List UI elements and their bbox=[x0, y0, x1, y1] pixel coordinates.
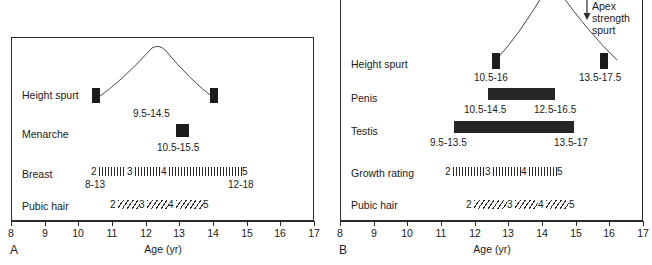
panel-b-tick-mark-16 bbox=[609, 221, 610, 226]
growth-rating-stage-4-b: 4 bbox=[521, 166, 527, 177]
height-spurt-offset-marker-a bbox=[210, 88, 218, 103]
apex-strength-spurt-line1: Apex bbox=[592, 1, 616, 13]
pubic-hair-segment-4-to-5-a bbox=[176, 200, 204, 209]
height-spurt-right-range-label-b: 13.5-17.5 bbox=[579, 72, 621, 83]
breast-stage-2-a: 2 bbox=[91, 166, 97, 177]
row-label-height-spurt-a: Height spurt bbox=[22, 89, 79, 101]
testis-right-range-label-b: 13.5-17 bbox=[554, 137, 588, 148]
breast-stage-5-a: 5 bbox=[242, 166, 248, 177]
row-label-menarche-a: Menarche bbox=[22, 128, 69, 140]
panel-b-tick-mark-13 bbox=[508, 221, 509, 226]
pubic-hair-segment-2-to-3-a bbox=[118, 200, 140, 209]
panel-a-tick-mark-17 bbox=[314, 221, 315, 226]
panel-a-axis-title: Age (yr) bbox=[103, 243, 223, 255]
pubic-hair-segment-4-to-5-b bbox=[546, 200, 569, 209]
penis-development-bar-b bbox=[488, 88, 555, 100]
panel-b-tick-mark-10 bbox=[407, 221, 408, 226]
panel-b-tick-label-15: 15 bbox=[564, 227, 588, 239]
breast-left-range-label-a: 8-13 bbox=[85, 179, 105, 190]
penis-left-range-label-b: 10.5-14.5 bbox=[464, 104, 506, 115]
pubic-hair-stage-4-a: 4 bbox=[168, 199, 174, 210]
height-spurt-offset-marker-b bbox=[600, 53, 608, 69]
pubic-hair-stage-2-b: 2 bbox=[466, 199, 472, 210]
panel-b-male: Apex strength spurt Height spurt 10.5-16… bbox=[326, 0, 652, 265]
pubic-hair-segment-3-to-4-a bbox=[147, 200, 169, 209]
apex-strength-spurt-line3: spurt bbox=[592, 25, 615, 37]
pubic-hair-segment-2-to-3-b bbox=[474, 200, 507, 209]
panel-b-tick-label-16: 16 bbox=[597, 227, 621, 239]
panel-a-tick-mark-12 bbox=[146, 221, 147, 226]
panel-a-letter: A bbox=[10, 243, 18, 257]
panel-b-tick-mark-9 bbox=[374, 221, 375, 226]
panel-b-tick-label-8: 8 bbox=[328, 227, 352, 239]
apex-strength-spurt-line2: strength bbox=[592, 13, 630, 25]
growth-rating-segment-2-to-3-b bbox=[453, 167, 485, 176]
pubic-hair-stage-2-a: 2 bbox=[110, 199, 116, 210]
panel-b-tick-label-9: 9 bbox=[362, 227, 386, 239]
breast-stage-4-a: 4 bbox=[161, 166, 167, 177]
height-spurt-range-label-a: 9.5-14.5 bbox=[133, 108, 170, 119]
pubic-hair-stage-4-b: 4 bbox=[538, 199, 544, 210]
pubic-hair-stage-5-b: 5 bbox=[569, 199, 575, 210]
panel-a-tick-label-13: 13 bbox=[167, 227, 191, 239]
panel-a-tick-label-14: 14 bbox=[201, 227, 225, 239]
panel-a-female: Height spurt 9.5-14.5 Menarche 10.5-15.5… bbox=[0, 0, 326, 265]
panel-b-tick-label-12: 12 bbox=[463, 227, 487, 239]
panel-b-tick-mark-12 bbox=[475, 221, 476, 226]
panel-a-tick-label-11: 11 bbox=[100, 227, 124, 239]
panel-a-tick-mark-10 bbox=[78, 221, 79, 226]
row-label-pubic-hair-a: Pubic hair bbox=[22, 200, 69, 212]
panel-a-tick-label-12: 12 bbox=[134, 227, 158, 239]
breast-right-range-label-a: 12-18 bbox=[228, 179, 254, 190]
panel-a-tick-mark-16 bbox=[280, 221, 281, 226]
panel-a-tick-label-16: 16 bbox=[268, 227, 292, 239]
panel-a-tick-label-9: 9 bbox=[33, 227, 57, 239]
growth-rating-stage-5-b: 5 bbox=[557, 166, 563, 177]
height-spurt-onset-marker-b bbox=[492, 53, 500, 69]
panel-a-tick-mark-9 bbox=[45, 221, 46, 226]
menarche-marker-a bbox=[176, 124, 189, 137]
panel-a-tick-mark-8 bbox=[11, 221, 12, 226]
panel-a-tick-mark-15 bbox=[247, 221, 248, 226]
panel-a-tick-label-15: 15 bbox=[235, 227, 259, 239]
panel-b-tick-mark-17 bbox=[643, 221, 644, 226]
row-label-height-spurt-b: Height spurt bbox=[351, 58, 408, 70]
row-label-testis-b: Testis bbox=[351, 125, 378, 137]
menarche-range-label-a: 10.5-15.5 bbox=[157, 142, 199, 153]
puberty-development-figure: Height spurt 9.5-14.5 Menarche 10.5-15.5… bbox=[0, 0, 652, 265]
panel-b-tick-mark-8 bbox=[340, 221, 341, 226]
row-label-pubic-hair-b: Pubic hair bbox=[351, 199, 398, 211]
growth-rating-segment-4-to-5-b bbox=[529, 167, 557, 176]
panel-b-letter: B bbox=[339, 243, 347, 257]
height-spurt-left-range-label-b: 10.5-16 bbox=[474, 72, 508, 83]
row-label-penis-b: Penis bbox=[351, 92, 377, 104]
panel-b-tick-label-14: 14 bbox=[530, 227, 554, 239]
panel-b-axis-title: Age (yr) bbox=[432, 243, 552, 255]
panel-b-tick-mark-14 bbox=[542, 221, 543, 226]
panel-a-tick-label-8: 8 bbox=[0, 227, 23, 239]
panel-a-tick-label-17: 17 bbox=[302, 227, 326, 239]
breast-segment-3-to-4-a bbox=[135, 167, 160, 176]
pubic-hair-stage-3-b: 3 bbox=[507, 199, 513, 210]
penis-right-range-label-b: 12.5-16.5 bbox=[534, 104, 576, 115]
pubic-hair-stage-3-a: 3 bbox=[139, 199, 145, 210]
panel-b-tick-label-10: 10 bbox=[395, 227, 419, 239]
panel-a-tick-mark-13 bbox=[179, 221, 180, 226]
growth-rating-segment-3-to-4-b bbox=[493, 167, 521, 176]
pubic-hair-stage-5-a: 5 bbox=[203, 199, 209, 210]
panel-b-tick-mark-15 bbox=[576, 221, 577, 226]
row-label-growth-rating-b: Growth rating bbox=[351, 167, 414, 179]
growth-rating-stage-3-b: 3 bbox=[485, 166, 491, 177]
panel-b-tick-label-17: 17 bbox=[631, 227, 652, 239]
breast-segment-4-to-5-a bbox=[169, 167, 242, 176]
breast-segment-2-to-3-a bbox=[99, 167, 126, 176]
row-label-breast-a: Breast bbox=[22, 168, 52, 180]
height-spurt-onset-marker-a bbox=[92, 88, 100, 103]
panel-b-tick-mark-11 bbox=[441, 221, 442, 226]
growth-rating-stage-2-b: 2 bbox=[445, 166, 451, 177]
panel-b-tick-label-13: 13 bbox=[496, 227, 520, 239]
panel-a-tick-label-10: 10 bbox=[66, 227, 90, 239]
testis-left-range-label-b: 9.5-13.5 bbox=[430, 137, 467, 148]
panel-b-tick-label-11: 11 bbox=[429, 227, 453, 239]
testis-development-bar-b bbox=[454, 121, 574, 133]
